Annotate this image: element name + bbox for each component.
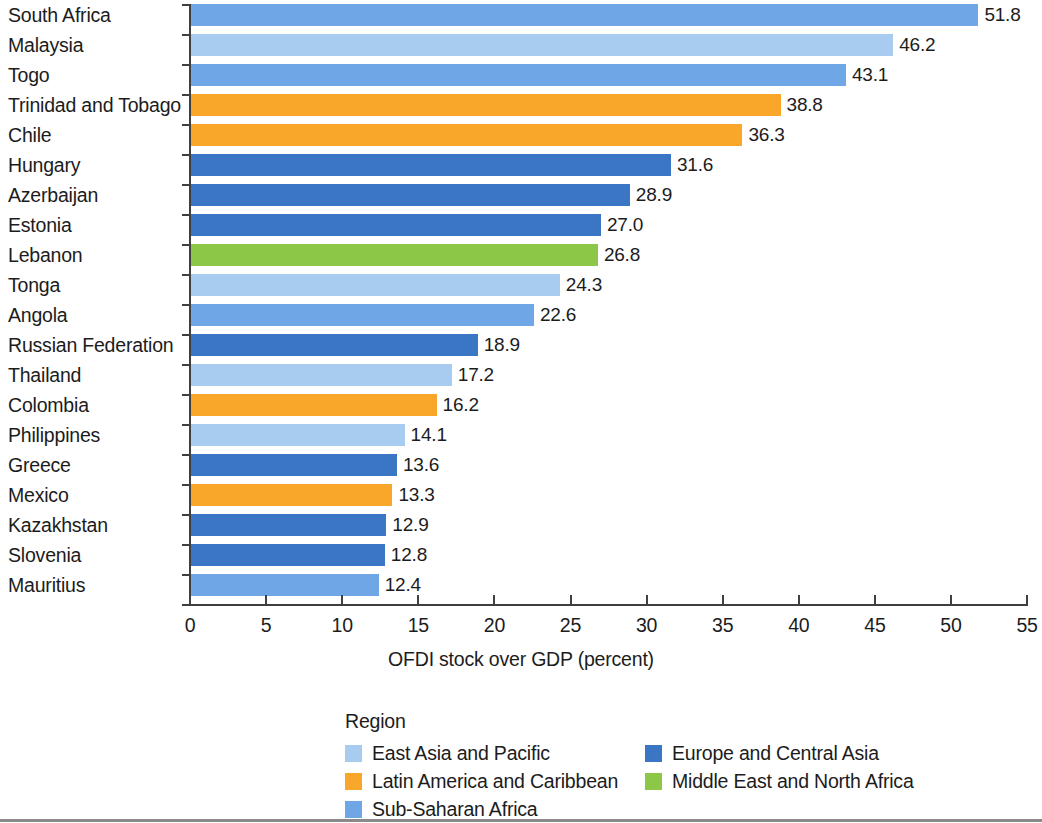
bar <box>190 34 893 56</box>
x-axis-tick-label: 45 <box>855 614 895 636</box>
category-label: Lebanon <box>8 240 182 270</box>
category-label: Kazakhstan <box>8 510 182 540</box>
bar <box>190 124 742 146</box>
x-axis-tick <box>265 595 267 604</box>
x-axis-line <box>189 604 1028 606</box>
bar-row: Chile36.3 <box>0 120 1042 150</box>
category-label-text: Greece <box>8 450 182 480</box>
bar-value-label: 24.3 <box>566 270 602 300</box>
legend-label: Latin America and Caribbean <box>372 767 618 795</box>
bar-row: Philippines14.1 <box>0 420 1042 450</box>
category-label-text: Chile <box>8 120 182 150</box>
bar-value-label: 14.1 <box>411 420 447 450</box>
category-label-text: Mauritius <box>8 570 182 600</box>
category-label: Mexico <box>8 480 182 510</box>
category-label-text: Estonia <box>8 210 182 240</box>
category-label: Angola <box>8 300 182 330</box>
x-axis-tick <box>1026 595 1028 604</box>
category-label-text: Mexico <box>8 480 182 510</box>
legend-swatch-icon <box>345 773 362 790</box>
bar <box>190 484 392 506</box>
category-label-text: South Africa <box>8 0 182 30</box>
category-label: Togo <box>8 60 182 90</box>
bar-row: Mauritius12.4 <box>0 570 1042 600</box>
bar-value-label: 27.0 <box>607 210 643 240</box>
bar-value-label: 16.2 <box>443 390 479 420</box>
bar-value-label: 28.9 <box>636 180 672 210</box>
bar-row: Malaysia46.2 <box>0 30 1042 60</box>
y-axis-tick <box>182 484 190 486</box>
x-axis-tick <box>417 595 419 604</box>
bar <box>190 364 452 386</box>
category-label: Mauritius <box>8 570 182 600</box>
x-axis-tick-label: 25 <box>551 614 591 636</box>
bar <box>190 64 846 86</box>
y-axis-tick <box>182 574 190 576</box>
x-axis-tick <box>798 595 800 604</box>
y-axis-tick <box>182 394 190 396</box>
category-label-text: Hungary <box>8 150 182 180</box>
bar-value-label: 13.6 <box>403 450 439 480</box>
category-label: Slovenia <box>8 540 182 570</box>
bar <box>190 4 978 26</box>
category-label: Azerbaijan <box>8 180 182 210</box>
y-axis-tick <box>182 544 190 546</box>
legend-item[interactable]: Latin America and Caribbean <box>345 767 618 795</box>
category-label-text: Russian Federation <box>8 330 182 360</box>
x-axis-tick-label: 30 <box>627 614 667 636</box>
legend-swatch-icon <box>345 801 362 818</box>
y-axis-tick <box>182 184 190 186</box>
y-axis-tick <box>182 274 190 276</box>
legend-swatch-icon <box>645 773 662 790</box>
bar-value-label: 46.2 <box>899 30 935 60</box>
x-axis-tick <box>493 595 495 604</box>
category-label-text: Philippines <box>8 420 182 450</box>
bar <box>190 574 379 596</box>
bar-value-label: 26.8 <box>604 240 640 270</box>
legend: Region East Asia and PacificEurope and C… <box>345 708 1035 823</box>
y-axis-tick <box>182 34 190 36</box>
legend-item[interactable]: Middle East and North Africa <box>645 767 914 795</box>
category-label-text: Togo <box>8 60 182 90</box>
bar-row: Mexico13.3 <box>0 480 1042 510</box>
x-axis-tick <box>646 595 648 604</box>
x-axis-tick-label: 50 <box>931 614 971 636</box>
bar-row: Hungary31.6 <box>0 150 1042 180</box>
category-label: Malaysia <box>8 30 182 60</box>
category-label: South Africa <box>8 0 182 30</box>
y-axis-tick <box>182 4 190 6</box>
bar-row: Slovenia12.8 <box>0 540 1042 570</box>
category-label: Thailand <box>8 360 182 390</box>
y-axis-tick <box>182 364 190 366</box>
bar-value-label: 38.8 <box>787 90 823 120</box>
category-label: Estonia <box>8 210 182 240</box>
category-label-text: Angola <box>8 300 182 330</box>
bar-row: Lebanon26.8 <box>0 240 1042 270</box>
category-label: Chile <box>8 120 182 150</box>
bar-value-label: 12.8 <box>391 540 427 570</box>
category-label-text: Kazakhstan <box>8 510 182 540</box>
legend-item[interactable]: Europe and Central Asia <box>645 739 879 767</box>
x-axis-tick-label: 40 <box>779 614 819 636</box>
bar <box>190 154 671 176</box>
bar-row: Estonia27.0 <box>0 210 1042 240</box>
x-axis-tick <box>950 595 952 604</box>
x-axis-title: OFDI stock over GDP (percent) <box>0 648 1042 671</box>
bar <box>190 214 601 236</box>
category-label: Hungary <box>8 150 182 180</box>
bar-row: Togo43.1 <box>0 60 1042 90</box>
y-axis-tick <box>182 64 190 66</box>
y-axis-tick <box>182 334 190 336</box>
bar-value-label: 36.3 <box>748 120 784 150</box>
legend-label: Middle East and North Africa <box>672 767 914 795</box>
legend-item[interactable]: East Asia and Pacific <box>345 739 550 767</box>
y-axis-tick <box>182 514 190 516</box>
bar-value-label: 12.9 <box>392 510 428 540</box>
bar-value-label: 18.9 <box>484 330 520 360</box>
bar <box>190 244 598 266</box>
category-label-text: Trinidad and Tobago <box>8 90 182 120</box>
x-axis-tick-label: 15 <box>398 614 438 636</box>
bar-value-label: 43.1 <box>852 60 888 90</box>
bar-value-label: 17.2 <box>458 360 494 390</box>
bar-rows: South Africa51.8Malaysia46.2Togo43.1Trin… <box>0 0 1042 600</box>
